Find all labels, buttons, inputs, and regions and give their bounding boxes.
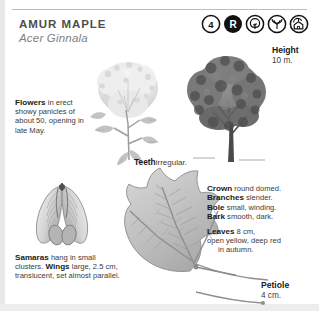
zone-number-badge: 4 — [201, 14, 221, 34]
callout-flowers-title: Flowers — [15, 98, 46, 107]
spec-term-crown: Crown — [207, 184, 232, 193]
spec-row-crown: Crown round domed. — [207, 184, 319, 193]
callout-teeth: Teethirregular. — [134, 158, 187, 167]
spec-row-bark: Bark smooth, dark. — [207, 212, 319, 221]
callout-teeth-value: irregular. — [156, 158, 187, 167]
spec-term-leaves: Leaves — [207, 227, 234, 236]
callout-height-title: Height — [272, 46, 299, 56]
header-divider-rule — [12, 9, 307, 10]
callout-teeth-title: Teeth — [134, 157, 156, 167]
callout-samaras: Samaras hang in small clusters. Wings la… — [15, 253, 120, 281]
tree-with-house-icon — [289, 14, 309, 34]
spec-term-bole: Bole — [207, 203, 225, 212]
tree-habit-illustration — [181, 50, 273, 168]
badge-row: 4 R — [201, 14, 309, 34]
spec-leaves-line3: in autumn. — [207, 245, 319, 254]
page-left-margin-strip — [0, 0, 5, 311]
callout-samaras-title: Samaras — [15, 253, 49, 262]
callout-height-value: 10 m. — [272, 56, 292, 65]
callout-height: Height 10 m. — [272, 46, 299, 65]
spec-leaves-line2: open yellow, deep red — [207, 236, 319, 245]
spec-row-leaves: Leaves 8 cm, — [207, 227, 319, 236]
vase-tree-icon — [267, 14, 287, 34]
plant-profile-page: AMUR MAPLE Acer Ginnala 4 R — [0, 0, 319, 311]
spec-desc-bark: smooth, dark. — [225, 212, 273, 221]
spec-term-branches: Branches — [207, 193, 244, 202]
spec-list: Crown round domed. Branches slender. Bol… — [207, 184, 319, 255]
rounded-form-letter: R — [229, 19, 237, 30]
callout-petiole: Petiole 4 cm. — [261, 281, 289, 300]
spec-desc-leaves: 8 cm, — [234, 227, 255, 236]
callout-petiole-value: 4 cm. — [261, 291, 281, 300]
callout-wings-title: Wings — [45, 262, 69, 271]
samara-illustration — [22, 183, 102, 255]
round-tree-icon — [245, 14, 265, 34]
spec-desc-bole: small, winding. — [225, 203, 277, 212]
scientific-name: Acer Ginnala — [19, 32, 88, 44]
petiole-leader-lines — [196, 258, 319, 308]
spec-row-bole: Bole small, winding. — [207, 203, 319, 212]
spec-desc-branches: slender. — [244, 193, 273, 202]
rounded-form-badge: R — [223, 14, 243, 34]
spec-term-bark: Bark — [207, 212, 225, 221]
callout-petiole-title: Petiole — [261, 281, 289, 291]
spec-row-branches: Branches slender. — [207, 193, 319, 202]
spec-desc-crown: round domed. — [232, 184, 281, 193]
page-title: AMUR MAPLE — [19, 18, 106, 30]
flower-panicle-illustration — [82, 52, 174, 167]
zone-number-text: 4 — [208, 19, 214, 30]
callout-flowers: Flowers in erect showy panicles of about… — [15, 98, 85, 135]
